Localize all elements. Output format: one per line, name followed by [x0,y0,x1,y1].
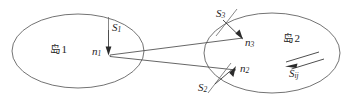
island-1-label-number: 1 [60,43,67,55]
ray-n1-to-n2 [110,57,236,71]
surface-label-s2: S2 [198,82,207,94]
normal-label-n2-subscript: 2 [246,66,250,75]
vector-label-sij: Sij [289,68,299,80]
surface-label-s3-subscript: 3 [222,11,226,20]
ray-n1-to-n3 [110,38,243,55]
normal-arrowhead-n3 [235,30,243,40]
normal-label-n3-subscript: 3 [251,40,255,49]
island-1-label: 岛1 [50,44,67,55]
island-2-label: 岛2 [283,33,300,44]
island-2-label-char: 岛 [283,32,293,44]
vector-line-sij-upper [286,52,319,62]
normal-label-n3: n3 [245,37,254,49]
surface-label-s1-subscript: 1 [118,25,122,34]
vector-label-sij-subscript: ij [295,71,299,80]
island-1-boundary [12,14,144,88]
surface-label-s2-subscript: 2 [204,85,208,94]
island-1-label-char: 岛 [50,43,60,55]
normal-shaft-n3 [223,20,239,35]
surface-label-s1: S1 [112,22,121,34]
normal-label-n1-subscript: 1 [98,49,102,58]
island-2-label-number: 2 [293,32,300,44]
normal-label-n2: n2 [240,63,249,75]
normal-label-n1: n1 [92,46,101,58]
surface-label-s3: S3 [216,8,225,20]
normal-arrowhead-n1 [106,47,112,56]
diagram-canvas: 岛1 岛2 n1 S1 S3 n3 n2 S2 Sij [0,0,347,106]
